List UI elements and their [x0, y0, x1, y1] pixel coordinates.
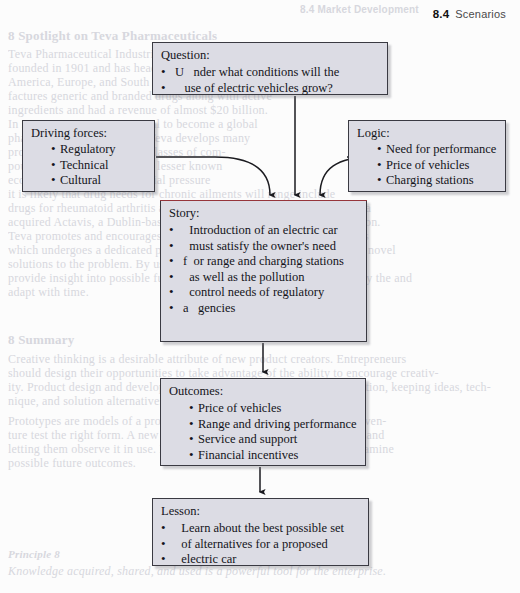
node-lesson[interactable]: Lesson: Learn about the best possible se… — [152, 498, 369, 566]
node-lesson-title: Lesson: — [161, 504, 360, 519]
node-story-line: f or range and charging stations — [169, 254, 358, 270]
node-story-line: control needs of regulatory — [169, 285, 358, 301]
list-item: Regulatory — [51, 142, 146, 158]
list-item: Range and driving performance — [189, 417, 357, 433]
scenario-flowchart: Question: U nder what conditions will th… — [0, 0, 520, 593]
list-item: Technical — [51, 158, 146, 174]
node-driving-forces-title: Driving forces: — [31, 126, 146, 141]
node-story-line: as well as the pollution — [169, 270, 358, 286]
node-lesson-lines: Learn about the best possible set of alt… — [161, 521, 360, 568]
node-outcomes-bullets: Price of vehicles Range and driving perf… — [169, 401, 357, 463]
node-question-lines: U nder what conditions will the use of e… — [161, 65, 379, 96]
node-story-title: Story: — [169, 206, 358, 221]
list-item: Price of vehicles — [189, 401, 357, 417]
node-lesson-line: of alternatives for a proposed — [161, 537, 360, 553]
running-head-number: 8.4 — [433, 8, 450, 20]
running-head-title: Scenarios — [455, 8, 506, 20]
node-question-line: U nder what conditions will the — [161, 65, 379, 81]
list-item: Cultural — [51, 173, 146, 189]
node-story-lines: Introduction of an electric car must sat… — [169, 223, 358, 316]
node-story-line: Introduction of an electric car — [169, 223, 358, 239]
node-lesson-line: Learn about the best possible set — [161, 521, 360, 537]
node-story[interactable]: Story: Introduction of an electric car m… — [160, 200, 367, 342]
node-outcomes[interactable]: Outcomes: Price of vehicles Range and dr… — [160, 378, 366, 466]
node-story-line: must satisfy the owner's need — [169, 239, 358, 255]
node-logic[interactable]: Logic: Need for performance Price of veh… — [348, 120, 506, 192]
node-question[interactable]: Question: U nder what conditions will th… — [152, 42, 388, 95]
node-logic-bullets: Need for performance Price of vehicles C… — [357, 142, 497, 189]
list-item: Charging stations — [377, 173, 497, 189]
node-outcomes-title: Outcomes: — [169, 384, 357, 399]
running-head: 8.4Scenarios — [433, 8, 506, 20]
list-item: Need for performance — [377, 142, 497, 158]
node-driving-forces[interactable]: Driving forces: Regulatory Technical Cul… — [22, 120, 155, 192]
list-item: Service and support — [189, 432, 357, 448]
node-story-line: a gencies — [169, 301, 358, 317]
node-logic-title: Logic: — [357, 126, 497, 141]
red-rule-artifact — [160, 200, 367, 201]
list-item: Financial incentives — [189, 448, 357, 464]
node-question-line: use of electric vehicles grow? — [161, 81, 379, 97]
page-canvas: 8.4 Market Development8 Spotlight on Tev… — [0, 0, 520, 593]
list-item: Price of vehicles — [377, 158, 497, 174]
node-driving-forces-bullets: Regulatory Technical Cultural — [31, 142, 146, 189]
node-lesson-line: electric car — [161, 552, 360, 568]
node-question-title: Question: — [161, 48, 379, 63]
